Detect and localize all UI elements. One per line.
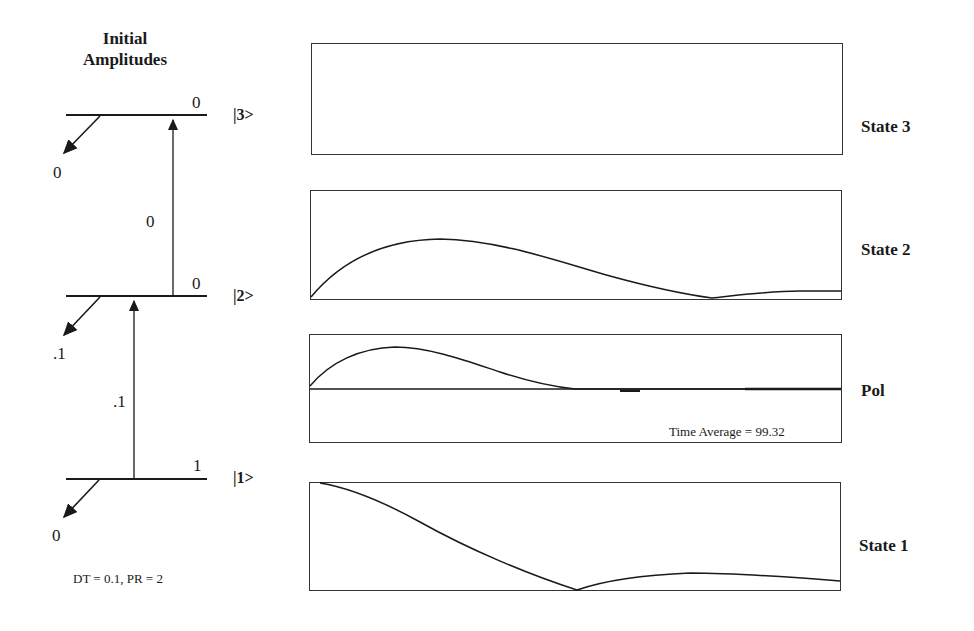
simulation-params: DT = 0.1, PR = 2 xyxy=(73,571,163,587)
level-2-amplitude: 0 xyxy=(192,274,201,294)
state-2-label: State 2 xyxy=(861,240,911,260)
ket-1: |1> xyxy=(233,469,254,487)
pol-label: Pol xyxy=(861,381,885,401)
level-2-decay-arrow xyxy=(64,297,100,335)
state-3-label: State 3 xyxy=(861,117,911,137)
time-average-text: Time Average = 99.32 xyxy=(669,424,785,440)
level-2-decay-value: .1 xyxy=(53,344,66,364)
state-1-label: State 1 xyxy=(859,536,909,556)
state-1-plot xyxy=(309,482,841,591)
level-3-amplitude: 0 xyxy=(192,93,201,113)
level-3-decay-arrow xyxy=(64,116,100,153)
level-1-decay-value: 0 xyxy=(52,526,61,546)
ket-3: |3> xyxy=(233,106,254,124)
state-3-plot xyxy=(311,43,843,155)
coupling-1-2-value: .1 xyxy=(113,392,126,412)
level-1-decay-arrow xyxy=(64,480,99,517)
level-1-amplitude: 1 xyxy=(193,456,202,476)
level-3-decay-value: 0 xyxy=(53,163,62,183)
coupling-2-3-value: 0 xyxy=(146,212,155,232)
ket-2: |2> xyxy=(233,287,254,305)
state-2-plot xyxy=(310,190,842,300)
